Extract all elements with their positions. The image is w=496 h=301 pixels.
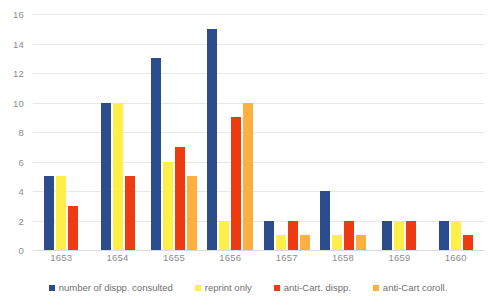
bar[interactable] — [163, 162, 173, 251]
bar[interactable] — [451, 221, 461, 251]
legend-item[interactable]: anti-Cart coroll. — [373, 282, 447, 293]
bar[interactable] — [175, 147, 185, 250]
y-axis-tick-label: 6 — [19, 156, 24, 167]
bar[interactable] — [243, 103, 253, 251]
bar[interactable] — [406, 221, 416, 251]
bar-group — [89, 14, 145, 250]
bar[interactable] — [68, 206, 78, 250]
bar[interactable] — [56, 176, 66, 250]
x-axis-tick-label: 1655 — [146, 252, 202, 263]
legend-item-label: anti-Cart coroll. — [383, 282, 447, 293]
bar[interactable] — [231, 117, 241, 250]
bar-chart: 1614121086420 16531654165516561657165816… — [0, 0, 496, 301]
bar[interactable] — [382, 221, 392, 251]
bar-group — [428, 14, 484, 250]
bar[interactable] — [44, 176, 54, 250]
chart-legend: number of dispp. consultedreprint onlyan… — [0, 282, 496, 293]
bar[interactable] — [101, 103, 111, 251]
y-axis: 1614121086420 — [0, 14, 30, 250]
legend-swatch-icon — [49, 285, 55, 291]
gridline — [33, 250, 484, 251]
y-axis-tick-label: 12 — [13, 68, 24, 79]
bar[interactable] — [207, 29, 217, 250]
bar[interactable] — [300, 235, 310, 250]
y-axis-tick-label: 0 — [19, 245, 24, 256]
y-axis-tick-label: 14 — [13, 38, 24, 49]
bar[interactable] — [276, 235, 286, 250]
y-axis-tick-label: 10 — [13, 97, 24, 108]
legend-item-label: anti-Cart. dispp. — [284, 282, 351, 293]
legend-item[interactable]: reprint only — [195, 282, 252, 293]
x-axis-tick-label: 1654 — [89, 252, 145, 263]
x-axis: 16531654165516561657165816591660 — [33, 252, 484, 263]
bar[interactable] — [320, 191, 330, 250]
y-axis-tick-label: 4 — [19, 186, 24, 197]
bar[interactable] — [264, 221, 274, 251]
bar[interactable] — [219, 221, 229, 251]
bar-group — [202, 14, 258, 250]
x-axis-tick-label: 1657 — [259, 252, 315, 263]
bar[interactable] — [356, 235, 366, 250]
legend-item[interactable]: number of dispp. consulted — [49, 282, 173, 293]
bar[interactable] — [113, 103, 123, 251]
legend-swatch-icon — [274, 285, 280, 291]
bar[interactable] — [288, 221, 298, 251]
x-axis-tick-label: 1653 — [33, 252, 89, 263]
legend-swatch-icon — [195, 285, 201, 291]
legend-item[interactable]: anti-Cart. dispp. — [274, 282, 351, 293]
x-axis-tick-label: 1660 — [428, 252, 484, 263]
bar[interactable] — [151, 58, 161, 250]
y-axis-tick-label: 8 — [19, 127, 24, 138]
bar-group — [146, 14, 202, 250]
bar[interactable] — [439, 221, 449, 251]
bar[interactable] — [332, 235, 342, 250]
legend-item-label: reprint only — [205, 282, 252, 293]
bar-group — [33, 14, 89, 250]
x-axis-tick-label: 1656 — [202, 252, 258, 263]
x-axis-tick-label: 1658 — [315, 252, 371, 263]
bar[interactable] — [344, 221, 354, 251]
legend-swatch-icon — [373, 285, 379, 291]
bar-group — [371, 14, 427, 250]
bar[interactable] — [125, 176, 135, 250]
bar[interactable] — [394, 221, 404, 251]
bar-group — [259, 14, 315, 250]
y-axis-tick-label: 16 — [13, 9, 24, 20]
y-axis-tick-label: 2 — [19, 215, 24, 226]
bar[interactable] — [187, 176, 197, 250]
bar-group — [315, 14, 371, 250]
x-axis-tick-label: 1659 — [371, 252, 427, 263]
legend-item-label: number of dispp. consulted — [59, 282, 173, 293]
bar[interactable] — [463, 235, 473, 250]
bar-groups — [33, 14, 484, 250]
